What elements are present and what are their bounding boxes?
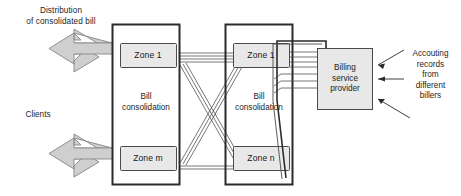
zone-1-left-label: Zone 1 [120,50,176,60]
zone-n-right-label: Zone n [233,153,289,163]
distribution-arrow-top [49,29,112,72]
clients-annotation: Clients [8,110,68,121]
zone-1-right-label: Zone 1 [233,50,289,60]
clients-arrow-bottom [49,134,112,177]
billing-service-provider-label: Billing service provider [317,63,373,95]
diagram-canvas: Distribution of consolidated bill Client… [0,0,461,196]
right-consolidation-label: Bill consolidation [225,92,293,113]
distribution-annotation: Distribution of consolidated bill [6,6,116,27]
left-consolidation-label: Bill consolidation [112,92,180,113]
accounting-records-annotation: Accouting records from different billers [403,49,458,102]
zone-m-left-label: Zone m [120,153,176,163]
